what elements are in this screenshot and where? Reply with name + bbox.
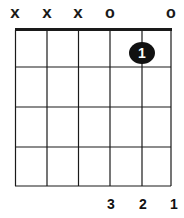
frets xyxy=(15,67,171,186)
finger-number-string-4: 3 xyxy=(103,196,119,212)
finger-dot-label: 1 xyxy=(132,43,152,63)
finger-number-string-5: 2 xyxy=(135,196,151,212)
fretboard-grid xyxy=(0,0,184,218)
finger-number-string-6: 1 xyxy=(166,196,182,212)
nut xyxy=(15,28,172,31)
